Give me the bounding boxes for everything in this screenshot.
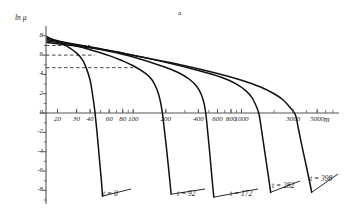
curve-label: t = 0	[103, 190, 118, 198]
curve-label: t = 92	[177, 190, 195, 198]
x-tick-label: 1000	[232, 116, 250, 123]
y-axis-title: ln μ	[15, 14, 26, 22]
x-tick-label: 40	[81, 116, 99, 123]
x-tick-label: 200	[157, 116, 175, 123]
x-tick-label: 100	[124, 116, 142, 123]
y-tick-label: 0	[30, 109, 43, 116]
chart-figure: ln μ m a 86420-2-4-6-8203040608010020040…	[0, 0, 346, 209]
y-tick-label: 4	[30, 70, 43, 77]
y-tick-label: -2	[30, 128, 43, 135]
y-tick-label: 2	[30, 90, 43, 97]
y-tick-label: -4	[30, 148, 43, 155]
y-tick-label: 8	[30, 32, 43, 39]
x-tick-label: 400	[189, 116, 207, 123]
curve-label: t = 282	[272, 182, 294, 190]
x-tick-label: 20	[49, 116, 67, 123]
y-tick-label: -8	[30, 186, 43, 193]
curve-label: t = 398	[310, 175, 332, 183]
x-tick-label: 3000	[284, 116, 302, 123]
y-tick-label: 6	[30, 51, 43, 58]
reference-lines-group	[46, 45, 133, 67]
curve-label: t = 172	[230, 190, 252, 198]
panel-label: a	[178, 10, 181, 17]
x-tick-label: 5000	[308, 116, 326, 123]
chart-plot-area	[0, 0, 346, 209]
y-tick-label: -6	[30, 167, 43, 174]
